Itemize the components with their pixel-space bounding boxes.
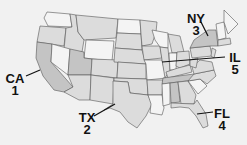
callout-ny-number: 3	[184, 25, 208, 37]
ca-leader	[26, 70, 40, 76]
state-ar	[147, 80, 163, 95]
state-wa	[44, 12, 72, 27]
state-mt	[76, 15, 118, 40]
state-fl	[171, 100, 208, 128]
callout-ca-number: 1	[4, 85, 26, 97]
state-ks	[117, 62, 146, 79]
state-ms	[162, 83, 170, 106]
callout-fl-number: 4	[211, 120, 233, 132]
callout-ny: NY 3	[184, 13, 208, 37]
callout-ca: CA 1	[4, 73, 26, 97]
state-nd	[117, 19, 141, 34]
state-wy	[84, 40, 114, 61]
callout-tx-number: 2	[76, 124, 98, 136]
state-me	[224, 10, 238, 34]
us-map	[0, 0, 247, 145]
state-vt-nh	[216, 22, 226, 40]
state-nm	[90, 75, 114, 104]
callout-il-number: 5	[225, 64, 245, 76]
state-sd	[115, 33, 142, 50]
state-nj	[211, 48, 216, 58]
callout-tx: TX 2	[76, 112, 98, 136]
state-ne	[114, 48, 146, 64]
state-wi	[152, 30, 168, 48]
callout-il: IL 5	[225, 52, 245, 76]
state-mi	[168, 34, 184, 53]
state-ia	[142, 46, 162, 60]
callout-fl: FL 4	[211, 108, 233, 132]
